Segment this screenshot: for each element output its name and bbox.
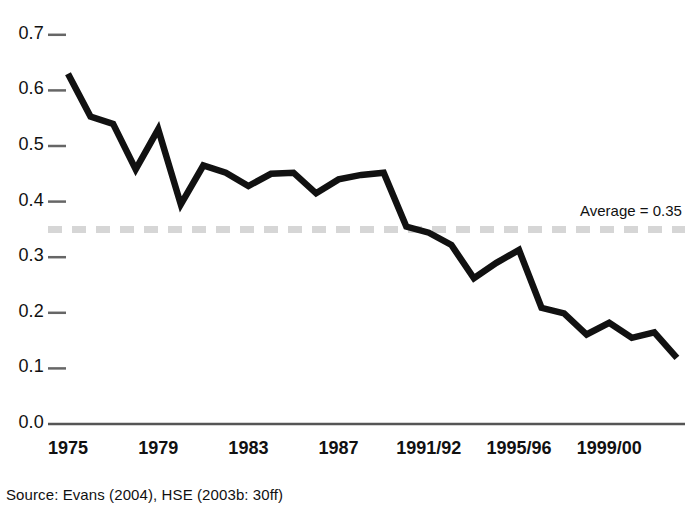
y-axis-tick-label: 0.2 [0, 301, 44, 322]
x-axis-tick-label: 1983 [228, 438, 268, 459]
y-axis-tick-label: 0.1 [0, 356, 44, 377]
x-axis-tick-label: 1987 [319, 438, 359, 459]
x-axis-tick-label: 1979 [138, 438, 178, 459]
y-axis-tick-label: 0.7 [0, 23, 44, 44]
x-axis-tick-label: 1991/92 [396, 438, 461, 459]
chart-figure: 0.70.60.50.40.30.20.10.0 197519791983198… [0, 0, 685, 516]
y-axis-tick-marks [48, 35, 66, 369]
x-axis-tick-label: 1995/96 [486, 438, 551, 459]
y-axis-tick-label: 0.4 [0, 190, 44, 211]
y-axis-tick-label: 0.6 [0, 78, 44, 99]
y-axis-tick-label: 0.0 [0, 412, 44, 433]
y-axis-tick-label: 0.3 [0, 245, 44, 266]
source-note: Source: Evans (2004), HSE (2003b: 30ff) [6, 486, 283, 503]
x-axis-tick-label: 1975 [48, 438, 88, 459]
average-line-label: Average = 0.35 [580, 202, 682, 219]
x-axis-tick-label: 1999/00 [577, 438, 642, 459]
y-axis-tick-label: 0.5 [0, 134, 44, 155]
